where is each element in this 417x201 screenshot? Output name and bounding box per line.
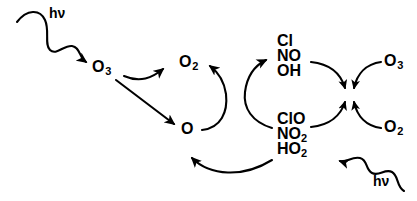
species-oxygen-molecule-right: O2 xyxy=(384,119,403,135)
arrow-oxygen-right-to-junction-path xyxy=(354,102,381,128)
photon-h-top-left: h xyxy=(49,5,58,21)
arrow-oxide-to-oxygen-atom-path xyxy=(192,158,272,173)
photon-nu-top-left: ν xyxy=(58,5,66,21)
radical-line-cl: Cl xyxy=(277,33,301,48)
arrow-ozone-to-oxygen-molecule-path xyxy=(124,69,163,79)
radical-line-oh: OH xyxy=(277,63,301,78)
oxide-reservoir-stack: ClO NO2 HO2 xyxy=(277,111,307,156)
arrow-ozone-to-oxygen-atom-path xyxy=(116,80,174,124)
species-ozone-right: O3 xyxy=(384,53,403,69)
arrow-radical-to-junction-path xyxy=(311,62,345,88)
arrow-ozone-right-to-junction-path xyxy=(354,62,381,88)
ozone-cycle-diagram: hν O3 O2 O Cl NO OH ClO NO2 HO2 O3 O2 hν xyxy=(0,0,417,201)
arrow-photon-to-oxide-path xyxy=(340,158,404,191)
radical-reservoir-stack: Cl NO OH xyxy=(277,33,301,78)
photon-label-bottom-right: hν xyxy=(373,174,389,188)
species-oxygen-molecule-right-subscript: 2 xyxy=(397,125,403,137)
oxide-line-ho2-text: HO xyxy=(277,140,301,157)
species-oxygen-molecule-center: O2 xyxy=(179,54,198,70)
oxide-line-clo: ClO xyxy=(277,111,307,126)
species-ozone-left-formula: O xyxy=(92,58,105,75)
arrow-oxygen-atom-to-oxygen-molecule-path xyxy=(202,66,226,130)
photon-label-top-left: hν xyxy=(49,6,65,20)
oxide-line-no2-subscript: 2 xyxy=(301,132,307,144)
species-ozone-left: O3 xyxy=(92,59,111,75)
species-oxygen-molecule-center-formula: O xyxy=(179,53,192,70)
radical-line-no: NO xyxy=(277,48,301,63)
species-oxygen-molecule-center-subscript: 2 xyxy=(192,60,198,72)
arrow-oxide-to-radical-path xyxy=(245,60,272,128)
species-oxygen-molecule-right-formula: O xyxy=(384,118,397,135)
photon-h-bottom-right: h xyxy=(373,173,382,189)
oxide-line-ho2-subscript: 2 xyxy=(301,147,307,159)
species-ozone-right-subscript: 3 xyxy=(397,59,403,71)
species-oxygen-atom-center-formula: O xyxy=(181,120,194,137)
radical-line-oh-text: OH xyxy=(277,62,301,79)
species-ozone-left-subscript: 3 xyxy=(105,65,111,77)
species-oxygen-atom-center: O xyxy=(181,121,194,137)
species-ozone-right-formula: O xyxy=(384,52,397,69)
arrow-oxide-to-junction-path xyxy=(311,102,345,127)
diagram-canvas xyxy=(0,0,417,201)
oxide-line-no2: NO2 xyxy=(277,126,307,141)
photon-nu-bottom-right: ν xyxy=(382,173,390,189)
